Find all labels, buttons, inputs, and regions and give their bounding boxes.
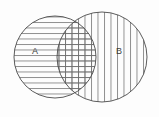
- venn-diagram-figure: A B: [0, 0, 159, 117]
- venn-diagram-canvas: A B: [0, 0, 159, 117]
